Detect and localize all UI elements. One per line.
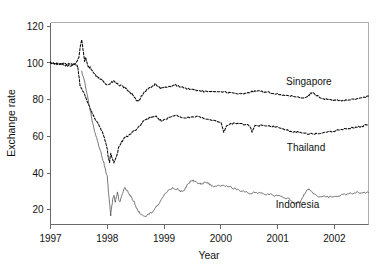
series-line-indonesia	[82, 71, 369, 217]
x-tick-label: 2000	[210, 233, 233, 244]
series-label-singapore: Singapore	[286, 76, 332, 87]
y-tick-label: 80	[32, 94, 44, 105]
series-label-indonesia: Indonesia	[276, 199, 320, 210]
y-axis-title: Exchange rate	[5, 89, 17, 157]
series-line-singapore	[51, 40, 369, 102]
x-tick-label: 2002	[323, 233, 346, 244]
series-label-thailand: Thailand	[287, 142, 325, 153]
x-axis-title: Year	[198, 249, 220, 261]
x-tick-label: 2001	[267, 233, 290, 244]
data-series-group	[51, 40, 369, 217]
x-tick-label: 1997	[39, 233, 62, 244]
y-tick-label: 120	[27, 21, 44, 32]
y-tick-label: 20	[32, 204, 44, 215]
x-tick-label: 1999	[153, 233, 176, 244]
exchange-rate-line-chart: 20406080100120 199719981999200020012002 …	[0, 0, 382, 274]
x-tick-label: 1998	[96, 233, 119, 244]
series-annotations: SingaporeThailandIndonesia	[276, 76, 332, 210]
chart-figure: 20406080100120 199719981999200020012002 …	[0, 0, 382, 274]
y-axis: 20406080100120	[27, 21, 51, 216]
y-tick-label: 40	[32, 168, 44, 179]
y-tick-label: 60	[32, 131, 44, 142]
x-axis: 199719981999200020012002	[39, 225, 346, 244]
y-tick-label: 100	[27, 58, 44, 69]
